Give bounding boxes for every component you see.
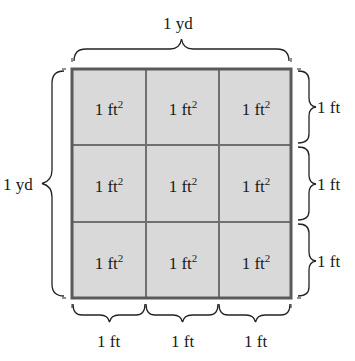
bottom-brace-2: [146, 304, 218, 322]
right-label-3: 1 ft: [317, 253, 340, 270]
left-label: 1 yd: [3, 176, 33, 193]
bottom-label-3: 1 ft: [244, 333, 267, 350]
left-brace: [42, 71, 64, 296]
cell-label: 1 ft2: [242, 99, 271, 118]
bottom-brace-1: [73, 304, 145, 322]
right-brace-2: [298, 147, 316, 220]
right-brace-1: [298, 71, 316, 143]
top-label: 1 yd: [163, 15, 193, 32]
bottom-label-2: 1 ft: [171, 333, 194, 350]
cell-label: 1 ft2: [169, 253, 198, 272]
cell-label: 1 ft2: [95, 99, 124, 118]
cell-label: 1 ft2: [95, 253, 124, 272]
bottom-brace-3: [219, 304, 290, 322]
right-label-2: 1 ft: [317, 176, 340, 193]
cell-label: 1 ft2: [242, 253, 271, 272]
cell-label: 1 ft2: [242, 176, 271, 195]
bottom-label-1: 1 ft: [97, 333, 120, 350]
right-label-1: 1 ft: [317, 99, 340, 116]
top-brace: [74, 39, 289, 61]
cell-label: 1 ft2: [169, 99, 198, 118]
right-brace-3: [298, 224, 316, 296]
cell-label: 1 ft2: [95, 176, 124, 195]
cell-label: 1 ft2: [169, 176, 198, 195]
